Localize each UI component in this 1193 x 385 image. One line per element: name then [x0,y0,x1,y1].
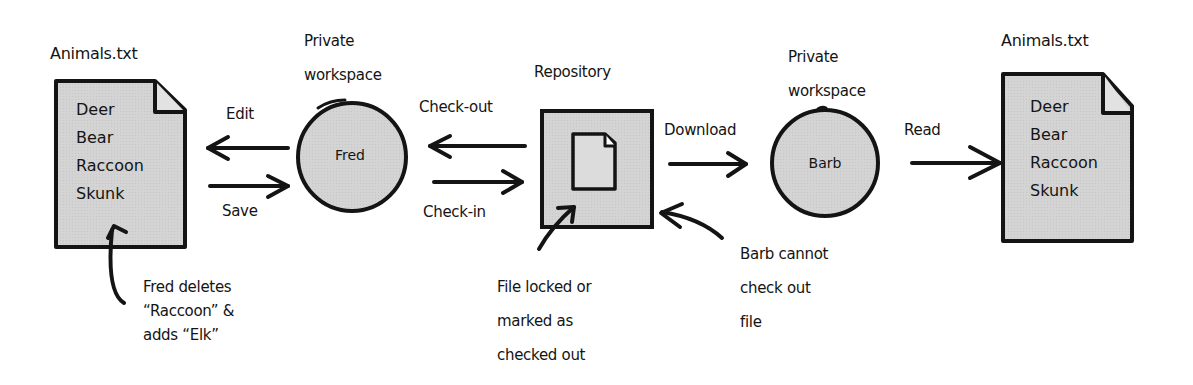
fred-node-name: Fred [320,147,380,163]
repository-label: Repository [534,61,611,83]
left-file-line: Skunk [76,180,144,208]
barb-workspace-label: Private workspace [788,40,866,108]
edit-arrow-icon [208,137,288,159]
barb-cannot-checkout-annotation: Barb cannot check out file [740,237,828,339]
barb-cannot-checkout-arrow-icon [661,204,722,238]
fred-edit-annotation: Fred deletes “Raccoon” & adds “Elk” [143,275,234,347]
download-label: Download [664,119,736,141]
right-file-title: Animals.txt [1001,30,1089,52]
download-arrow-icon [670,153,746,176]
left-file-contents: Deer Bear Raccoon Skunk [76,96,144,208]
edit-label: Edit [226,103,254,125]
save-label: Save [222,200,258,222]
right-file-line: Skunk [1030,177,1098,205]
barb-node-name: Barb [795,155,855,171]
read-arrow-icon [912,147,1000,178]
right-file-line: Bear [1030,121,1098,149]
left-file-line: Raccoon [76,152,144,180]
check-in-arrow-icon [434,171,522,193]
right-file-contents: Deer Bear Raccoon Skunk [1030,93,1098,205]
fred-workspace-label: Private workspace [304,24,382,92]
left-file-line: Bear [76,124,144,152]
save-arrow-icon [210,176,288,197]
check-out-arrow-icon [430,136,525,157]
left-file-line: Deer [76,96,144,124]
check-in-label: Check-in [423,201,486,223]
file-locked-annotation: File locked or marked as checked out [497,270,591,372]
right-file-line: Raccoon [1030,149,1098,177]
check-out-label: Check-out [419,96,493,118]
read-label: Read [904,119,941,141]
right-file-line: Deer [1030,93,1098,121]
left-file-title: Animals.txt [50,43,138,65]
